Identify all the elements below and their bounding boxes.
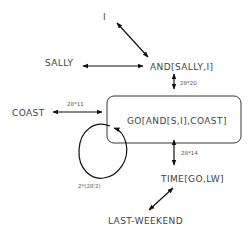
node-sally[interactable]: SALLY bbox=[45, 58, 73, 68]
node-time[interactable]: TIME[GO,LW] bbox=[160, 174, 224, 184]
semantic-network-diagram: I SALLY AND[SALLY,I] 28*20 GO[AND[S,I],C… bbox=[0, 0, 251, 232]
edge-time-lastweekend bbox=[149, 188, 173, 210]
edge-label-go-time: 28*14 bbox=[181, 150, 198, 156]
edge-label-go-self-loop: 2*(28'2) bbox=[78, 183, 101, 189]
edge-label-coast-go: 28*11 bbox=[67, 101, 84, 107]
edge-label-and-go: 28*20 bbox=[180, 80, 197, 86]
node-last-weekend[interactable]: LAST-WEEKEND bbox=[108, 216, 183, 226]
node-coast[interactable]: COAST bbox=[12, 108, 45, 118]
node-and[interactable]: AND[SALLY,I] bbox=[150, 62, 214, 72]
node-go[interactable]: GO[AND[S,I],COAST] bbox=[127, 116, 227, 126]
node-i[interactable]: I bbox=[103, 12, 106, 22]
edge-i-and bbox=[117, 23, 148, 57]
